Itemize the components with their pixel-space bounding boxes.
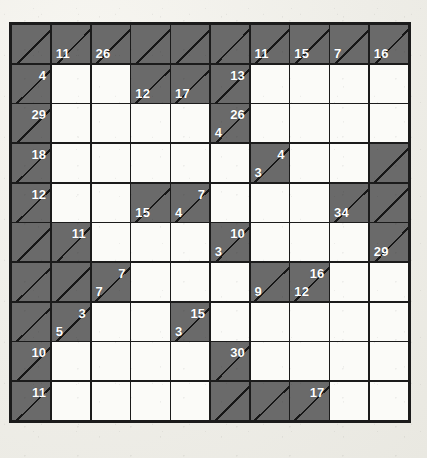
entry-cell[interactable] — [330, 223, 368, 261]
entry-cell[interactable] — [251, 65, 289, 103]
entry-cell[interactable] — [211, 144, 249, 182]
entry-cell[interactable] — [171, 342, 209, 380]
kakuro-grid[interactable]: 1126111571641217132926418431215743411103… — [9, 22, 411, 423]
entry-cell[interactable] — [290, 342, 328, 380]
entry-cell[interactable] — [370, 382, 408, 420]
entry-cell[interactable] — [211, 263, 249, 301]
down-clue-value: 11 — [255, 47, 269, 60]
entry-cell[interactable] — [290, 223, 328, 261]
clue-cell: 17 — [290, 382, 328, 420]
across-clue-value: 10 — [31, 346, 46, 359]
entry-cell[interactable] — [131, 223, 169, 261]
down-clue-value: 3 — [175, 325, 182, 338]
entry-cell[interactable] — [92, 144, 130, 182]
entry-cell[interactable] — [92, 303, 130, 341]
entry-cell[interactable] — [290, 303, 328, 341]
blocked-cell — [52, 263, 90, 301]
entry-cell[interactable] — [131, 263, 169, 301]
down-clue-value: 12 — [294, 285, 309, 298]
clue-cell: 15 — [290, 25, 328, 63]
down-clue-value: 5 — [56, 325, 63, 338]
entry-cell[interactable] — [370, 263, 408, 301]
entry-cell[interactable] — [131, 303, 169, 341]
entry-cell[interactable] — [251, 223, 289, 261]
entry-cell[interactable] — [330, 144, 368, 182]
entry-cell[interactable] — [251, 184, 289, 222]
clue-cell: 29 — [370, 223, 408, 261]
clue-cell: 10 — [12, 342, 50, 380]
down-clue-value: 7 — [334, 47, 341, 60]
entry-cell[interactable] — [92, 223, 130, 261]
entry-cell[interactable] — [52, 342, 90, 380]
down-clue-value: 9 — [255, 285, 262, 298]
across-clue-value: 4 — [39, 69, 46, 82]
clue-cell: 16 — [370, 25, 408, 63]
entry-cell[interactable] — [131, 144, 169, 182]
entry-cell[interactable] — [92, 104, 130, 142]
entry-cell[interactable] — [52, 184, 90, 222]
entry-cell[interactable] — [52, 144, 90, 182]
entry-cell[interactable] — [171, 223, 209, 261]
entry-cell[interactable] — [290, 104, 328, 142]
entry-cell[interactable] — [251, 303, 289, 341]
entry-cell[interactable] — [52, 382, 90, 420]
entry-cell[interactable] — [330, 263, 368, 301]
down-clue-value: 4 — [215, 126, 222, 139]
entry-cell[interactable] — [131, 104, 169, 142]
entry-cell[interactable] — [370, 342, 408, 380]
entry-cell[interactable] — [171, 263, 209, 301]
entry-cell[interactable] — [171, 144, 209, 182]
entry-cell[interactable] — [370, 303, 408, 341]
entry-cell[interactable] — [171, 382, 209, 420]
entry-cell[interactable] — [131, 342, 169, 380]
entry-cell[interactable] — [52, 65, 90, 103]
entry-cell[interactable] — [290, 65, 328, 103]
entry-cell[interactable] — [330, 104, 368, 142]
entry-cell[interactable] — [211, 303, 249, 341]
down-clue-value: 3 — [255, 166, 262, 179]
entry-cell[interactable] — [330, 342, 368, 380]
entry-cell[interactable] — [290, 144, 328, 182]
entry-cell[interactable] — [330, 382, 368, 420]
clue-cell: 30 — [211, 342, 249, 380]
down-clue-value: 4 — [175, 206, 182, 219]
clue-cell: 11 — [251, 25, 289, 63]
blocked-cell — [370, 144, 408, 182]
entry-cell[interactable] — [171, 104, 209, 142]
across-clue-value: 7 — [198, 188, 205, 201]
down-clue-value: 15 — [135, 206, 150, 219]
clue-cell: 12 — [12, 184, 50, 222]
down-clue-value: 16 — [374, 47, 389, 60]
entry-cell[interactable] — [370, 65, 408, 103]
entry-cell[interactable] — [92, 184, 130, 222]
entry-cell[interactable] — [330, 65, 368, 103]
entry-cell[interactable] — [92, 342, 130, 380]
entry-cell[interactable] — [92, 382, 130, 420]
entry-cell[interactable] — [251, 342, 289, 380]
across-clue-value: 17 — [310, 386, 325, 399]
entry-cell[interactable] — [251, 104, 289, 142]
across-clue-value: 11 — [72, 227, 86, 240]
entry-cell[interactable] — [330, 303, 368, 341]
entry-cell[interactable] — [211, 184, 249, 222]
entry-cell[interactable] — [52, 104, 90, 142]
across-clue-value: 30 — [230, 346, 245, 359]
entry-cell[interactable] — [131, 382, 169, 420]
across-clue-value: 10 — [230, 227, 245, 240]
across-clue-value: 7 — [118, 267, 125, 280]
entry-cell[interactable] — [290, 184, 328, 222]
down-clue-value: 15 — [294, 47, 309, 60]
clue-cell: 7 — [330, 25, 368, 63]
clue-cell: 153 — [171, 303, 209, 341]
down-clue-value: 12 — [135, 87, 150, 100]
clue-cell: 43 — [251, 144, 289, 182]
blocked-cell — [171, 25, 209, 63]
clue-cell: 11 — [52, 25, 90, 63]
entry-cell[interactable] — [370, 104, 408, 142]
blocked-cell — [12, 263, 50, 301]
entry-cell[interactable] — [92, 65, 130, 103]
across-clue-value: 29 — [31, 108, 46, 121]
clue-cell: 17 — [171, 65, 209, 103]
clue-cell: 35 — [52, 303, 90, 341]
blocked-cell — [370, 184, 408, 222]
